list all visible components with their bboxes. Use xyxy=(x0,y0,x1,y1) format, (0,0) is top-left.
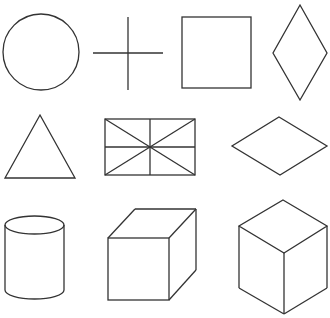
rectangle-with-diagonals-shape xyxy=(105,119,195,175)
shapes-diagram xyxy=(0,0,330,318)
circle-shape xyxy=(3,14,79,90)
cross-shape xyxy=(93,17,163,90)
square-shape xyxy=(182,17,251,88)
oblique-cube-shape xyxy=(108,209,196,300)
vertical-rhombus-shape xyxy=(273,5,327,100)
horizontal-rhombus-shape xyxy=(232,117,327,175)
triangle-shape xyxy=(5,115,75,178)
isometric-cube-shape xyxy=(239,200,327,314)
cylinder-shape xyxy=(5,216,64,299)
